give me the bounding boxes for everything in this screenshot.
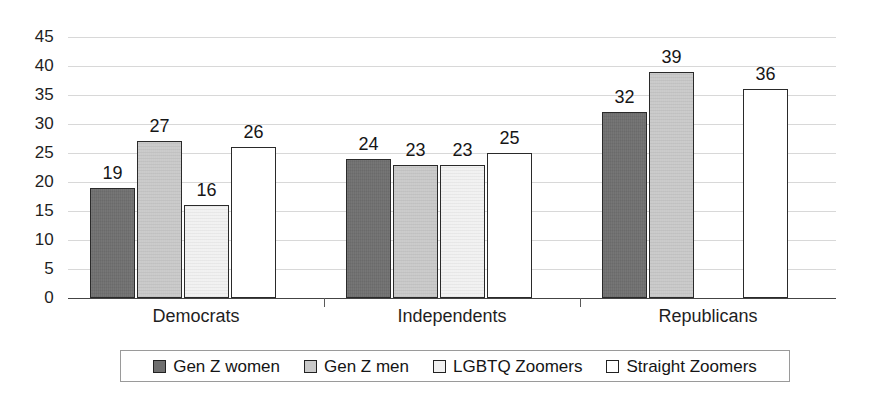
bar-value-label: 23 bbox=[452, 141, 472, 159]
bar-value-label: 27 bbox=[149, 117, 169, 135]
y-axis-tick-label: 20 bbox=[8, 173, 54, 190]
y-axis-tick-label: 30 bbox=[8, 115, 54, 132]
legend-item[interactable]: LGBTQ Zoomers bbox=[433, 358, 582, 375]
bar-series-container: 1927162624232325323936 bbox=[68, 37, 836, 298]
bar[interactable] bbox=[184, 205, 229, 298]
bar-value-label: 19 bbox=[102, 164, 122, 182]
bar-group: 24232325 bbox=[324, 37, 580, 298]
legend-label: Gen Z women bbox=[173, 358, 280, 375]
bar[interactable] bbox=[137, 141, 182, 298]
legend-item[interactable]: Gen Z women bbox=[153, 358, 280, 375]
bar-value-label: 36 bbox=[755, 65, 775, 83]
y-axis-tick-label: 45 bbox=[8, 28, 54, 45]
bar-value-label: 23 bbox=[405, 141, 425, 159]
x-axis-category-label: Democrats bbox=[68, 306, 324, 326]
bar[interactable] bbox=[440, 165, 485, 298]
bar-slot: 32 bbox=[602, 37, 647, 298]
legend-label: Straight Zoomers bbox=[626, 358, 756, 375]
y-axis-tick-label: 40 bbox=[8, 57, 54, 74]
legend-swatch-icon bbox=[304, 360, 317, 373]
chart-legend: Gen Z womenGen Z menLGBTQ ZoomersStraigh… bbox=[120, 350, 790, 382]
bar-group: 323936 bbox=[580, 37, 836, 298]
bar[interactable] bbox=[602, 112, 647, 298]
legend-swatch-icon bbox=[153, 360, 166, 373]
axis-baseline bbox=[68, 298, 836, 299]
bar-chart: 1927162624232325323936 45403530252015105… bbox=[0, 0, 880, 400]
y-axis-tick-label: 35 bbox=[8, 86, 54, 103]
legend-item[interactable]: Gen Z men bbox=[304, 358, 409, 375]
y-axis-tick-label: 25 bbox=[8, 144, 54, 161]
bar-value-label: 32 bbox=[614, 88, 634, 106]
bar-group: 19271626 bbox=[68, 37, 324, 298]
bar-slot: 27 bbox=[137, 37, 182, 298]
x-axis-category-label: Republicans bbox=[580, 306, 836, 326]
bar-value-label: 25 bbox=[499, 129, 519, 147]
y-axis-tick-label: 0 bbox=[8, 289, 54, 306]
bar[interactable] bbox=[393, 165, 438, 298]
bar-slot: 39 bbox=[649, 37, 694, 298]
legend-swatch-icon bbox=[433, 360, 446, 373]
legend-label: LGBTQ Zoomers bbox=[453, 358, 582, 375]
bar[interactable] bbox=[90, 188, 135, 298]
y-axis-tick-label: 15 bbox=[8, 202, 54, 219]
bar-slot: 26 bbox=[231, 37, 276, 298]
bar-slot: 23 bbox=[393, 37, 438, 298]
y-axis-tick-label: 5 bbox=[8, 260, 54, 277]
legend-item[interactable]: Straight Zoomers bbox=[606, 358, 756, 375]
bar-slot bbox=[696, 37, 741, 298]
bar-value-label: 39 bbox=[661, 48, 681, 66]
bar-slot: 23 bbox=[440, 37, 485, 298]
bar-slot: 25 bbox=[487, 37, 532, 298]
bar-slot: 24 bbox=[346, 37, 391, 298]
bar[interactable] bbox=[346, 159, 391, 298]
x-axis-category-label: Independents bbox=[324, 306, 580, 326]
bar-value-label: 16 bbox=[196, 181, 216, 199]
x-axis-tick bbox=[580, 298, 581, 307]
bar[interactable] bbox=[487, 153, 532, 298]
bar[interactable] bbox=[743, 89, 788, 298]
bar-value-label: 26 bbox=[243, 123, 263, 141]
bar-value-label: 24 bbox=[358, 135, 378, 153]
bar[interactable] bbox=[231, 147, 276, 298]
x-axis-tick bbox=[324, 298, 325, 307]
legend-swatch-icon bbox=[606, 360, 619, 373]
bar[interactable] bbox=[649, 72, 694, 298]
y-axis-tick-label: 10 bbox=[8, 231, 54, 248]
legend-label: Gen Z men bbox=[324, 358, 409, 375]
plot-area: 1927162624232325323936 bbox=[68, 37, 836, 298]
bar-slot: 16 bbox=[184, 37, 229, 298]
bar-slot: 36 bbox=[743, 37, 788, 298]
bar-slot: 19 bbox=[90, 37, 135, 298]
